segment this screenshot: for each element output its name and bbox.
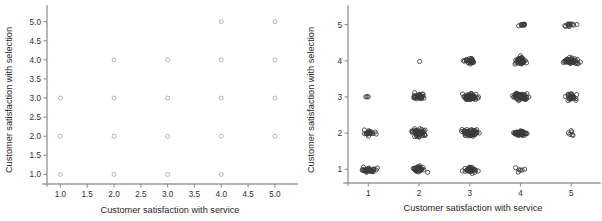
x-tick-label: 3 <box>467 189 472 198</box>
data-point <box>273 134 277 138</box>
x-tick-label: 4 <box>518 189 523 198</box>
x-tick-label: 4.0 <box>216 190 228 199</box>
y-tick-label: 5 <box>337 21 342 30</box>
data-point <box>58 172 62 176</box>
left-x-axis: 1.01.52.02.53.03.54.04.55.0 <box>43 184 297 199</box>
data-point <box>58 134 62 138</box>
data-point <box>273 96 277 100</box>
data-point <box>219 134 223 138</box>
data-point <box>166 96 170 100</box>
data-point <box>112 172 116 176</box>
data-point <box>417 59 421 63</box>
y-tick-label: 3.5 <box>30 75 42 84</box>
data-point <box>514 166 518 170</box>
data-point <box>166 134 170 138</box>
data-point <box>166 58 170 62</box>
x-tick-label: 5.0 <box>269 190 281 199</box>
data-point <box>273 20 277 24</box>
data-point <box>112 134 116 138</box>
y-tick-label: 2 <box>337 129 342 138</box>
x-tick-label: 2.0 <box>108 190 120 199</box>
left-y-axis: 1.01.52.02.53.03.54.04.55.0 <box>30 6 47 186</box>
y-tick-label: 2.5 <box>30 113 42 122</box>
data-point <box>426 170 430 174</box>
x-tick-label: 3.5 <box>189 190 201 199</box>
right-y-axis-title: Customer satisfaction with selection <box>306 27 316 173</box>
left-y-axis-title: Customer satisfaction with selection <box>4 27 14 173</box>
y-tick-label: 1.5 <box>30 151 42 160</box>
x-tick-label: 1.5 <box>82 190 94 199</box>
y-tick-label: 1.0 <box>30 170 42 179</box>
x-tick-label: 1 <box>366 189 371 198</box>
right-plot-area <box>360 22 582 176</box>
data-point <box>219 96 223 100</box>
y-tick-label: 3.0 <box>30 94 42 103</box>
y-tick-label: 3 <box>337 93 342 102</box>
right-y-axis: 12345 <box>337 6 348 185</box>
y-tick-label: 5.0 <box>30 18 42 27</box>
x-tick-label: 4.5 <box>242 190 254 199</box>
data-point <box>219 58 223 62</box>
right-x-axis: 12345 <box>344 183 600 198</box>
x-tick-label: 3.0 <box>162 190 174 199</box>
y-tick-label: 4.0 <box>30 56 42 65</box>
data-point <box>112 96 116 100</box>
data-point <box>273 58 277 62</box>
x-tick-label: 2 <box>417 189 422 198</box>
panel-left-canvas: 1.01.52.02.53.03.54.04.55.0 1.01.52.02.5… <box>0 0 301 221</box>
data-point <box>58 96 62 100</box>
y-tick-label: 1 <box>337 165 342 174</box>
panel-right-canvas: 12345 12345 Customer satisfaction with s… <box>301 0 602 221</box>
left-plot-area <box>58 20 277 177</box>
data-point <box>219 172 223 176</box>
x-tick-label: 1.0 <box>55 190 67 199</box>
y-tick-label: 2.0 <box>30 132 42 141</box>
scatter-plot-figure: 1.01.52.02.53.03.54.04.55.0 1.01.52.02.5… <box>0 0 602 221</box>
left-x-axis-title: Customer satisfaction with service <box>101 205 240 215</box>
data-point <box>166 172 170 176</box>
y-tick-label: 4 <box>337 57 342 66</box>
y-tick-label: 4.5 <box>30 37 42 46</box>
panel-unjittered-scatter: 1.01.52.02.53.03.54.04.55.0 1.01.52.02.5… <box>0 0 301 221</box>
x-tick-label: 5 <box>569 189 574 198</box>
x-tick-label: 2.5 <box>135 190 147 199</box>
right-x-axis-title: Customer satisfaction with service <box>404 203 543 213</box>
data-point <box>219 20 223 24</box>
panel-jittered-scatter: 12345 12345 Customer satisfaction with s… <box>301 0 602 221</box>
data-point <box>112 58 116 62</box>
